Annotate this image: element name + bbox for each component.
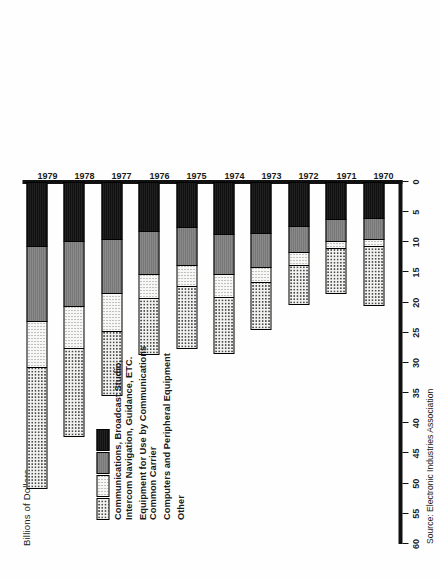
legend-item-line1: Other	[175, 495, 185, 520]
value-tick-label: 5	[410, 210, 420, 215]
value-tick	[402, 211, 408, 212]
category-label-1974: 1974	[224, 171, 244, 181]
value-tick-label: 0	[410, 179, 420, 184]
bar-1971	[325, 182, 346, 294]
legend-item-line2: Intercom Navigation, Guidance, ETC.	[123, 346, 134, 520]
legend-item-line1: Computers and Peripheral Equipment	[161, 353, 171, 520]
legend-item-label: Other	[175, 346, 186, 520]
bar-segment-solid-black	[250, 182, 271, 233]
value-tick	[402, 422, 408, 423]
legend-swatch-fine-dots	[96, 475, 109, 497]
bar-segment-solid-grey	[63, 241, 84, 306]
bar-segment-solid-black	[138, 182, 159, 231]
value-tick-label: 50	[410, 479, 420, 489]
bar-1979	[26, 182, 47, 489]
stacked-bar-chart: Billions of Dollars 60555045403530252015…	[0, 0, 441, 580]
legend-item-line1: Communications, Broadcast Studio,	[112, 360, 122, 520]
bar-segment-coarse-dots	[63, 348, 84, 437]
bar-segment-fine-dots	[176, 265, 197, 286]
chart-rotation-stage: Billions of Dollars 60555045403530252015…	[0, 0, 441, 580]
value-tick	[402, 241, 408, 242]
value-tick-label: 20	[410, 298, 420, 308]
value-tick-label: 45	[410, 448, 420, 458]
legend-item-label: Computers and Peripheral Equipment	[161, 346, 172, 520]
value-tick-label: 10	[410, 237, 420, 247]
bar-segment-solid-grey	[213, 235, 234, 274]
bar-segment-solid-grey	[325, 219, 346, 240]
bar-1973	[250, 182, 271, 330]
value-tick-label: 15	[410, 267, 420, 277]
bar-segment-solid-black	[288, 182, 309, 226]
bar-segment-solid-black	[101, 182, 122, 239]
category-label-1978: 1978	[74, 171, 94, 181]
bar-1978	[63, 182, 84, 437]
value-tick	[402, 272, 408, 273]
category-label-1977: 1977	[111, 171, 131, 181]
bar-segment-solid-grey	[138, 231, 159, 274]
bar-segment-solid-grey	[176, 227, 197, 266]
value-tick	[402, 181, 408, 182]
legend-swatch-solid-grey	[96, 452, 109, 474]
bar-segment-solid-grey	[101, 239, 122, 293]
value-tick	[402, 483, 408, 484]
bar-segment-solid-grey	[26, 246, 47, 321]
bar-segment-fine-dots	[363, 239, 384, 246]
bar-segment-solid-grey	[288, 226, 309, 252]
value-tick	[402, 362, 408, 363]
bar-segment-coarse-dots	[325, 248, 346, 293]
value-tick	[402, 332, 408, 333]
bar-segment-solid-black	[176, 182, 197, 227]
bar-segment-solid-grey	[363, 218, 384, 239]
value-tick-label: 40	[410, 418, 420, 428]
bar-segment-coarse-dots	[176, 286, 197, 349]
legend-item-label: Equipment for Use by CommunicationsCommo…	[137, 346, 158, 520]
bar-segment-coarse-dots	[250, 282, 271, 330]
legend-item-label: Communications, Broadcast Studio,Interco…	[112, 346, 133, 520]
category-label-1971: 1971	[336, 171, 356, 181]
value-axis-line	[398, 180, 402, 544]
source-note: Source: Electronic Industries Associatio…	[424, 389, 434, 544]
category-label-1975: 1975	[186, 171, 206, 181]
bar-segment-solid-black	[26, 182, 47, 246]
bar-1976	[138, 182, 159, 355]
bar-segment-coarse-dots	[288, 265, 309, 305]
legend-swatch-coarse-dots	[96, 498, 109, 520]
bar-segment-fine-dots	[288, 252, 309, 265]
bar-segment-fine-dots	[26, 321, 47, 367]
bar-1970	[363, 182, 384, 306]
bar-segment-solid-black	[325, 182, 346, 219]
bar-segment-fine-dots	[213, 274, 234, 298]
bar-segment-fine-dots	[138, 274, 159, 298]
bar-segment-solid-grey	[250, 233, 271, 267]
value-tick	[402, 453, 408, 454]
legend-swatches	[96, 346, 109, 520]
category-label-1970: 1970	[373, 171, 393, 181]
bar-segment-fine-dots	[63, 306, 84, 348]
value-tick-label: 60	[410, 539, 420, 549]
legend-item-line2: Common Carrier	[147, 346, 158, 520]
legend-swatch-solid-black	[96, 429, 109, 451]
bar-segment-fine-dots	[101, 293, 122, 331]
value-tick-label: 35	[410, 388, 420, 398]
category-label-1976: 1976	[149, 171, 169, 181]
value-tick-label: 25	[410, 328, 420, 338]
value-tick-label: 30	[410, 358, 420, 368]
bar-1974	[213, 182, 234, 354]
bar-segment-solid-black	[63, 182, 84, 241]
bar-segment-solid-black	[213, 182, 234, 234]
category-label-1979: 1979	[37, 171, 57, 181]
bar-1975	[176, 182, 197, 349]
bar-segment-coarse-dots	[213, 297, 234, 354]
bar-segment-coarse-dots	[363, 246, 384, 306]
legend-labels: Communications, Broadcast Studio,Interco…	[112, 346, 186, 520]
legend-item-line1: Equipment for Use by Communications	[137, 346, 147, 520]
value-tick	[402, 543, 408, 544]
legend: Communications, Broadcast Studio,Interco…	[96, 346, 190, 520]
category-label-1973: 1973	[261, 171, 281, 181]
category-label-1972: 1972	[298, 171, 318, 181]
bar-1972	[288, 182, 309, 305]
value-tick-label: 55	[410, 509, 420, 519]
bar-segment-fine-dots	[325, 241, 346, 249]
bar-segment-coarse-dots	[26, 367, 47, 489]
bar-segment-fine-dots	[250, 267, 271, 281]
